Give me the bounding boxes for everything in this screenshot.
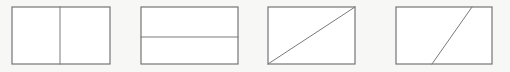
panel-horizontal-split (141, 7, 238, 64)
rectangles-figure (0, 0, 510, 72)
panel-oblique-split (396, 7, 492, 64)
figure-strip (0, 0, 510, 72)
panel-vertical-half-split (12, 7, 110, 64)
panel-2-outline (141, 7, 238, 64)
panel-4-outline (396, 7, 492, 64)
panel-1-outline (12, 7, 110, 64)
panel-corner-diagonal-split (268, 7, 355, 64)
